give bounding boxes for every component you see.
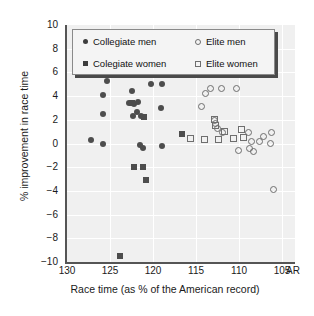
data-point-elite-men — [248, 138, 255, 145]
x-axis-tick-label: 120 — [133, 266, 173, 276]
y-axis-line — [65, 25, 67, 264]
data-point-collegiate-men — [148, 81, 154, 87]
x-axis-end-label: AR — [273, 266, 313, 276]
data-point-collegiate-women — [179, 131, 185, 137]
data-point-collegiate-women — [129, 100, 135, 106]
legend-label: Elite men — [206, 36, 246, 47]
data-point-elite-men — [250, 148, 257, 155]
data-point-elite-women — [230, 135, 237, 142]
legend-label: Elite women — [206, 58, 258, 69]
filled-circle-icon — [83, 39, 88, 44]
data-point-elite-men — [233, 85, 240, 92]
data-point-elite-men — [260, 133, 267, 140]
data-point-collegiate-men — [135, 99, 141, 105]
data-point-collegiate-men — [129, 88, 135, 94]
data-point-elite-women — [215, 136, 222, 143]
data-point-elite-women — [187, 135, 194, 142]
x-axis-label: Race time (as % of the American record) — [35, 283, 295, 295]
chart-legend: Collegiate men Elite men Colegiate women… — [72, 29, 275, 75]
data-point-collegiate-women — [131, 164, 137, 170]
x-axis-tick-label: 110 — [219, 266, 259, 276]
legend-row-1: Collegiate men Elite men — [73, 31, 276, 52]
data-point-collegiate-men — [100, 92, 106, 98]
data-point-collegiate-men — [159, 81, 165, 87]
data-point-elite-women — [201, 136, 208, 143]
data-point-collegiate-women — [140, 164, 146, 170]
legend-entry-collegiate-men: Collegiate men — [83, 31, 156, 52]
legend-label: Colegiate women — [93, 58, 166, 69]
x-axis-tick-label: 115 — [176, 266, 216, 276]
data-point-collegiate-men — [159, 143, 165, 149]
data-point-collegiate-men — [88, 137, 94, 143]
scatter-chart-figure: 1086420−2−4−6−8−10130125120115110105AR %… — [0, 0, 314, 316]
data-point-elite-men — [235, 147, 242, 154]
open-square-icon — [195, 61, 201, 67]
data-point-elite-men — [218, 85, 225, 92]
data-point-elite-women — [240, 134, 247, 141]
legend-entry-elite-women: Elite women — [195, 53, 258, 74]
filled-square-icon — [83, 61, 88, 66]
data-point-elite-women — [221, 128, 228, 135]
data-point-elite-men — [268, 129, 275, 136]
data-point-collegiate-women — [143, 177, 149, 183]
data-point-elite-men — [198, 103, 205, 110]
x-axis-tick-label: 130 — [47, 266, 87, 276]
data-point-elite-men — [267, 140, 274, 147]
data-point-elite-women — [238, 126, 245, 133]
data-point-collegiate-men — [100, 141, 106, 147]
data-point-collegiate-women — [141, 114, 147, 120]
legend-row-2: Colegiate women Elite women — [73, 53, 276, 74]
legend-entry-elite-men: Elite men — [195, 31, 246, 52]
x-axis-tick-label: 125 — [90, 266, 130, 276]
data-point-collegiate-men — [100, 111, 106, 117]
legend-entry-collegiate-women: Colegiate women — [83, 53, 166, 74]
y-axis-label: % improvement in race time — [18, 26, 30, 246]
x-axis-line — [65, 262, 295, 264]
data-point-elite-men — [207, 85, 214, 92]
data-point-collegiate-men — [104, 78, 110, 84]
data-point-elite-men — [270, 186, 277, 193]
data-point-collegiate-men — [140, 145, 146, 151]
open-circle-icon — [195, 39, 201, 45]
legend-label: Collegiate men — [93, 36, 156, 47]
data-point-elite-women — [212, 122, 219, 129]
data-point-collegiate-women — [117, 253, 123, 259]
data-point-collegiate-men — [158, 105, 164, 111]
